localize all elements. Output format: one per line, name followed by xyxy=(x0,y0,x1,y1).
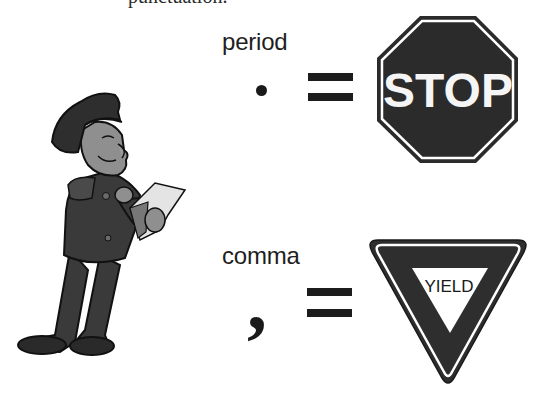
yield-sign-text: YIELD xyxy=(424,277,473,296)
punctuation-illustration: punctuation. period xyxy=(0,0,548,411)
yield-sign-icon: YIELD xyxy=(0,0,548,411)
